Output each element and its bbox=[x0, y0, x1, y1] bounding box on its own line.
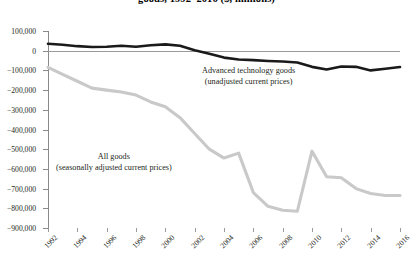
x-axis-tick bbox=[136, 228, 137, 232]
x-axis-tick-label: 1996 bbox=[101, 233, 118, 250]
x-axis-tick-label: 2004 bbox=[218, 233, 235, 250]
x-axis-tick-label: 2010 bbox=[306, 233, 323, 250]
series-layer bbox=[0, 0, 413, 264]
x-axis-tick-label: 1992 bbox=[42, 233, 59, 250]
y-axis-tick bbox=[43, 208, 48, 209]
y-axis-tick-label: −300,000 bbox=[7, 105, 36, 114]
x-axis-tick bbox=[224, 228, 225, 232]
y-axis-tick-label: −600,000 bbox=[7, 164, 36, 173]
x-axis-tick bbox=[312, 228, 313, 232]
annotation-all-goods: All goods (seasonally adjusted current p… bbox=[56, 152, 172, 173]
x-axis-tick-label: 2006 bbox=[248, 233, 265, 250]
annotation-advanced-line1: Advanced technology goods bbox=[202, 66, 295, 77]
y-axis-tick-label: −400,000 bbox=[7, 125, 36, 134]
y-axis-tick bbox=[43, 130, 48, 131]
x-axis-tick bbox=[165, 228, 166, 232]
y-axis-tick-label: −800,000 bbox=[7, 204, 36, 213]
annotation-all-line2: (seasonally adjusted current prices) bbox=[56, 163, 172, 174]
y-axis-tick bbox=[43, 169, 48, 170]
annotation-advanced-line2: (unadjusted current prices) bbox=[202, 77, 295, 88]
x-axis-tick-label: 1994 bbox=[72, 233, 89, 250]
y-axis-tick-label: −900,000 bbox=[7, 224, 36, 233]
x-axis-tick bbox=[341, 228, 342, 232]
x-axis-tick-label: 2000 bbox=[160, 233, 177, 250]
x-axis-tick-labels: 1992199419961998200020022004200620082010… bbox=[48, 233, 413, 264]
zero-reference-line bbox=[48, 51, 400, 52]
y-axis-tick bbox=[43, 110, 48, 111]
y-axis-tick-label: −700,000 bbox=[7, 184, 36, 193]
x-axis-tick bbox=[283, 228, 284, 232]
y-axis-tick bbox=[43, 70, 48, 71]
x-axis-tick bbox=[195, 228, 196, 232]
y-axis-tick-label: 100,000 bbox=[11, 27, 36, 36]
y-axis-tick bbox=[43, 31, 48, 32]
y-axis-tick-label: −500,000 bbox=[7, 145, 36, 154]
y-axis-tick bbox=[43, 189, 48, 190]
x-axis-tick-label: 1998 bbox=[130, 233, 147, 250]
y-axis-tick-labels: 100,0000−100,000−200,000−300,000−400,000… bbox=[0, 31, 44, 228]
y-axis-tick-label: −200,000 bbox=[7, 86, 36, 95]
annotation-all-line1: All goods bbox=[56, 152, 172, 163]
y-axis-tick-label: −100,000 bbox=[7, 66, 36, 75]
series-line-all-goods bbox=[48, 67, 400, 211]
annotation-advanced-technology-goods: Advanced technology goods (unadjusted cu… bbox=[202, 66, 295, 87]
x-axis-tick bbox=[48, 228, 49, 232]
y-axis-line bbox=[48, 31, 49, 228]
x-axis-tick-label: 2002 bbox=[189, 233, 206, 250]
x-axis-tick bbox=[400, 228, 401, 232]
y-axis-tick bbox=[43, 149, 48, 150]
x-axis-tick bbox=[371, 228, 372, 232]
x-axis-tick-label: 2014 bbox=[365, 233, 382, 250]
y-axis-tick bbox=[43, 90, 48, 91]
x-axis-tick bbox=[107, 228, 108, 232]
y-axis-tick-label: 0 bbox=[32, 46, 36, 55]
x-axis-tick bbox=[77, 228, 78, 232]
chart-title: goods, 1992–2016 ($, millions) bbox=[0, 0, 413, 4]
x-axis-tick-label: 2008 bbox=[277, 233, 294, 250]
x-axis-tick-label: 2012 bbox=[336, 233, 353, 250]
x-axis-tick-label: 2016 bbox=[394, 233, 411, 250]
x-axis-tick bbox=[253, 228, 254, 232]
chart-canvas: goods, 1992–2016 ($, millions) 100,0000−… bbox=[0, 0, 413, 264]
